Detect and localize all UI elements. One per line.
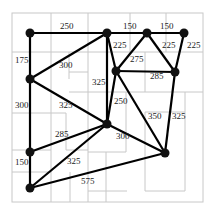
weight-b-h: 325 — [92, 77, 106, 87]
node-e — [26, 75, 35, 84]
weight-c-f: 275 — [130, 54, 144, 64]
node-g — [171, 68, 180, 77]
weight-b-c: 150 — [123, 21, 137, 31]
weight-f-g: 285 — [150, 71, 164, 81]
edge-f-g — [116, 71, 175, 72]
floorplan-graph: 250 150 150 175 300 225 275 225 225 285 … — [0, 0, 216, 223]
weight-h-j: 300 — [116, 131, 130, 141]
node-j — [161, 149, 170, 158]
node-h — [103, 120, 112, 129]
node-k — [26, 184, 35, 193]
node-d — [180, 29, 189, 38]
weight-c-d: 150 — [160, 21, 174, 31]
node-f — [112, 67, 121, 76]
weight-e-b: 300 — [59, 60, 73, 70]
weight-e-i: 300 — [15, 100, 29, 110]
node-b — [103, 29, 112, 38]
weight-f-j: 350 — [148, 111, 162, 121]
weight-e-h: 325 — [59, 100, 73, 110]
weight-b-f: 225 — [113, 40, 127, 50]
weight-a-e: 175 — [15, 55, 29, 65]
weight-k-j: 575 — [81, 176, 95, 186]
weight-k-h: 325 — [67, 156, 81, 166]
node-i — [26, 148, 35, 157]
weight-d-g: 225 — [187, 40, 201, 50]
weight-g-j: 325 — [172, 111, 186, 121]
weight-f-h: 250 — [114, 96, 128, 106]
node-a — [26, 29, 35, 38]
weight-a-b: 250 — [60, 21, 74, 31]
edge-i-h — [30, 124, 107, 152]
weight-i-h: 285 — [55, 129, 69, 139]
weight-c-g: 225 — [162, 40, 176, 50]
node-c — [143, 29, 152, 38]
weight-i-k: 150 — [15, 157, 29, 167]
